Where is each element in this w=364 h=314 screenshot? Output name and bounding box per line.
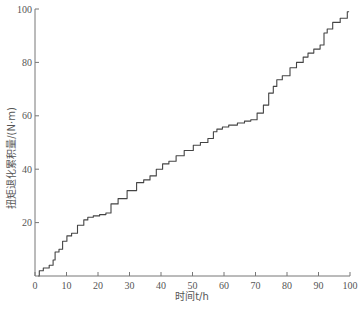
x-tick-label: 10 bbox=[62, 280, 72, 291]
x-axis-title: 时间t/h bbox=[175, 290, 209, 302]
x-tick-label: 90 bbox=[314, 280, 324, 291]
x-tick-label: 100 bbox=[343, 280, 358, 291]
x-tick-label: 50 bbox=[188, 280, 198, 291]
x-tick-label: 60 bbox=[219, 280, 229, 291]
y-tick-label: 100 bbox=[17, 4, 32, 15]
data-line bbox=[38, 12, 349, 276]
y-tick-label: 20 bbox=[22, 217, 32, 228]
y-tick-label: 80 bbox=[22, 57, 32, 68]
y-axis-ticks: 20406080100 bbox=[17, 4, 39, 229]
x-tick-label: 20 bbox=[93, 280, 103, 291]
y-axis-title: 扭矩退化累积量/(N·m) bbox=[5, 107, 17, 209]
x-tick-label: 80 bbox=[282, 280, 292, 291]
x-tick-label: 70 bbox=[251, 280, 261, 291]
x-tick-label: 40 bbox=[156, 280, 166, 291]
x-axis-ticks: 0102030405060708090100 bbox=[33, 272, 358, 291]
x-tick-label: 30 bbox=[125, 280, 135, 291]
y-tick-label: 60 bbox=[22, 110, 32, 121]
plot-area bbox=[38, 12, 349, 276]
x-tick-label: 0 bbox=[33, 280, 38, 291]
y-tick-label: 40 bbox=[22, 164, 32, 175]
line-chart: 20406080100 0102030405060708090100 时间t/h… bbox=[0, 0, 364, 314]
